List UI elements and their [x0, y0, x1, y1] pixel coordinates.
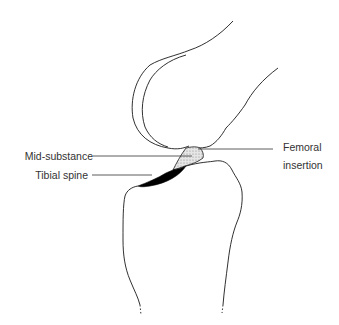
tibial-spine-insertion: [138, 166, 186, 187]
label-mid-substance: Mid-substance: [25, 150, 93, 162]
label-femoral-insertion-line2: insertion: [283, 159, 323, 171]
acl-mid-substance: [173, 147, 203, 170]
femur-outline: [132, 21, 278, 149]
label-femoral-insertion-line1: Femoral: [283, 141, 323, 153]
tibia-outline: [123, 161, 242, 315]
label-tibial-spine: Tibial spine: [35, 169, 88, 181]
label-femoral-insertion: Femoral insertion: [283, 141, 323, 171]
